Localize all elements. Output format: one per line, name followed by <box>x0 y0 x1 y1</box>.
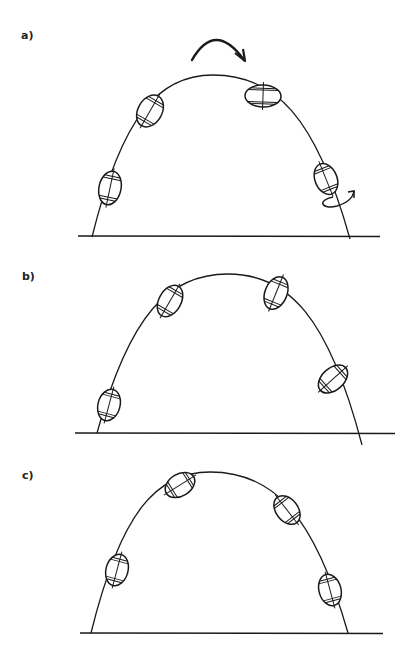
panel-c <box>80 466 383 634</box>
football-icon <box>245 81 282 110</box>
football-icon <box>311 357 355 400</box>
trajectory-arc <box>92 75 350 239</box>
football-icon <box>314 569 345 611</box>
football-icon <box>258 270 293 315</box>
trajectory-arc <box>91 472 348 633</box>
ground-line <box>75 433 395 434</box>
panel-b <box>75 270 395 445</box>
football-icon <box>101 549 132 591</box>
panel-a <box>78 40 380 239</box>
ground-line <box>80 633 383 634</box>
football-icon <box>95 166 125 210</box>
football-icon <box>93 384 124 426</box>
trajectory-arc <box>97 274 362 445</box>
football-icon <box>309 157 344 200</box>
ground-line <box>78 236 380 237</box>
rotation-arrow-icon <box>192 40 244 60</box>
football-icon <box>130 88 171 135</box>
trajectory-diagram <box>0 0 414 665</box>
football-icon <box>267 488 308 531</box>
football-icon <box>150 278 189 324</box>
